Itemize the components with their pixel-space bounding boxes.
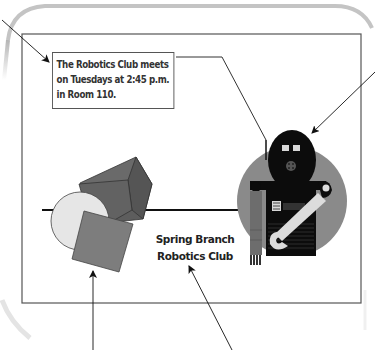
meeting-info-line-1: The Robotics Club meets	[57, 57, 174, 72]
robot-eye-right	[293, 145, 300, 151]
club-name-title: Spring Branch Robotics Club	[150, 231, 240, 265]
club-name-line-2: Robotics Club	[150, 248, 240, 265]
club-name-line-1: Spring Branch	[150, 231, 240, 248]
meeting-info-line-2: on Tuesdays at 2:45 p.m.	[57, 72, 174, 87]
meeting-info-line-3: in Room 110.	[57, 87, 174, 102]
robot-left-arm	[250, 191, 262, 255]
robot-eye-left	[282, 145, 289, 151]
meeting-info-box: The Robotics Club meets on Tuesdays at 2…	[52, 52, 174, 109]
robot-mouth-grille	[286, 161, 296, 171]
